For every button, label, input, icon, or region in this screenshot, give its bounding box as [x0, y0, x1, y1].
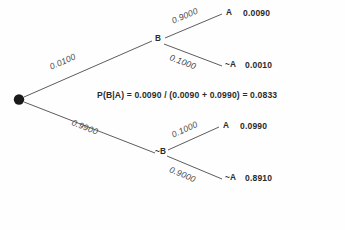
probability-tree-diagram: B ~B 0.0100 0.9900 0.9000 0.1000 0.1000 …: [0, 0, 345, 230]
root-node-dot: [14, 94, 24, 104]
leaf-label-a-2: A: [223, 121, 229, 130]
edge-root-to-b: [24, 41, 152, 97]
leaf-label-a-1: A: [226, 8, 232, 17]
leaf-label-not-a-2: ~A: [225, 173, 236, 182]
leaf-value-a-2: 0.0990: [240, 121, 267, 131]
leaf-value-not-a-2: 0.8910: [245, 173, 272, 183]
leaf-value-a-1: 0.0090: [243, 8, 270, 18]
node-label-b: B: [155, 34, 161, 43]
tree-edges-svg: [0, 0, 345, 230]
leaf-value-not-a-1: 0.0010: [245, 60, 272, 70]
node-label-not-b: ~B: [155, 147, 166, 156]
leaf-label-not-a-1: ~A: [225, 60, 236, 69]
bayes-formula-text: P(B|A) = 0.0090 / (0.0090 + 0.0990) = 0.…: [97, 90, 277, 100]
